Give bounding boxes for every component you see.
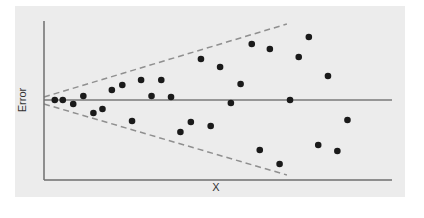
data-point xyxy=(325,73,332,80)
envelope-lower-line xyxy=(44,104,287,175)
data-point xyxy=(177,129,184,136)
data-point xyxy=(207,123,214,130)
data-point xyxy=(334,148,341,155)
data-point xyxy=(248,41,255,48)
data-point xyxy=(217,64,224,71)
data-point xyxy=(109,87,116,94)
data-point xyxy=(267,46,274,53)
data-point xyxy=(51,97,58,104)
data-point xyxy=(148,93,155,100)
data-point xyxy=(168,94,175,101)
data-point xyxy=(315,142,322,149)
data-point xyxy=(344,117,351,124)
envelope-upper-line xyxy=(44,24,287,97)
data-point xyxy=(276,161,283,168)
data-point xyxy=(99,106,106,113)
data-point xyxy=(228,100,235,107)
data-point xyxy=(138,77,145,84)
data-point xyxy=(188,119,195,126)
data-point xyxy=(295,54,302,61)
y-axis-label: Error xyxy=(16,88,28,112)
data-point xyxy=(90,110,97,117)
data-point xyxy=(119,82,126,89)
data-point xyxy=(59,97,66,104)
data-point xyxy=(70,101,77,108)
data-point xyxy=(198,56,205,63)
x-axis-label: X xyxy=(212,181,219,193)
data-point xyxy=(80,93,87,100)
data-point xyxy=(256,147,263,154)
data-point xyxy=(306,34,313,41)
data-point xyxy=(158,77,165,84)
data-point xyxy=(237,81,244,88)
data-point xyxy=(129,118,136,125)
data-point xyxy=(287,97,294,104)
